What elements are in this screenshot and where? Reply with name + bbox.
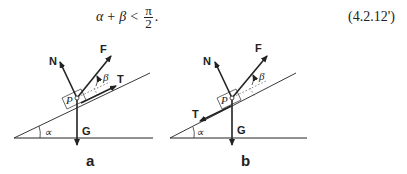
figure-b: N F T G P β ∝ b [170, 42, 307, 169]
label-f: F [255, 42, 262, 54]
t-force-arrow [81, 86, 116, 103]
alpha-arc [39, 126, 40, 138]
figure-caption-b: b [241, 152, 250, 169]
label-t: T [192, 108, 199, 120]
incline-line [170, 73, 296, 138]
label-alpha: ∝ [44, 126, 53, 138]
label-n: N [203, 55, 211, 67]
incline-force-diagrams: N F T G P β ∝ a N F T G P β ∝ b [0, 0, 407, 174]
t-force-arrow [200, 106, 231, 121]
label-alpha: ∝ [196, 126, 205, 138]
label-g: G [237, 124, 246, 136]
label-p: P [65, 94, 73, 106]
label-g: G [82, 125, 91, 137]
label-p: P [220, 94, 228, 106]
label-beta: β [102, 71, 109, 83]
figure-a: N F T G P β ∝ a [14, 43, 153, 169]
beta-arc [252, 75, 254, 85]
label-t: T [117, 73, 124, 85]
alpha-arc [193, 127, 194, 138]
label-n: N [49, 55, 57, 67]
point-p [75, 96, 79, 100]
dotted-incline-direction [233, 81, 266, 97]
n-force-arrow [215, 62, 232, 98]
label-beta: β [258, 70, 265, 82]
beta-arc [96, 76, 98, 86]
label-f: F [100, 43, 107, 55]
n-force-arrow [60, 62, 77, 98]
figure-caption-a: a [86, 152, 95, 169]
point-p [230, 96, 234, 100]
